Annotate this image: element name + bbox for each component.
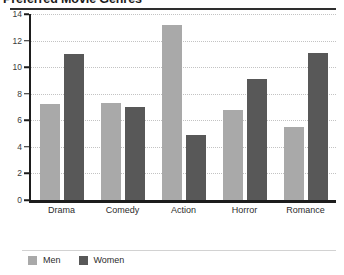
plot-wrapper: 02468101214 DramaComedyActionHorrorRoman… [0,14,344,246]
bar-group [214,14,275,200]
y-axis-tick-label: 10 [0,63,22,72]
y-axis-tick-label: 4 [0,143,22,152]
plot-area [31,14,336,200]
bar-group [275,14,336,200]
legend-swatch-icon [28,256,37,265]
x-axis-tick-label: Drama [31,206,92,215]
x-axis-tick-label: Romance [275,206,336,215]
y-axis-tick-label: 6 [0,116,22,125]
y-axis-tick-label: 8 [0,89,22,98]
legend-divider [22,250,336,251]
y-axis-tick-label: 12 [0,36,22,45]
x-axis-line [29,200,336,203]
x-axis-tick-label: Action [153,206,214,215]
y-axis-labels: 02468101214 [0,14,22,246]
x-axis-labels: DramaComedyActionHorrorRomance [31,206,336,215]
bar-group [92,14,153,200]
bar-action-women[interactable] [186,135,206,200]
bar-group [31,14,92,200]
bar-romance-men[interactable] [284,127,304,200]
y-axis-tick-label: 0 [0,196,22,205]
bar-drama-men[interactable] [40,104,60,200]
x-axis-tick-label: Horror [214,206,275,215]
legend-label: Men [43,256,61,265]
y-axis-tick-label: 14 [0,10,22,19]
chart-title-area: Preferred Movie Genres [0,0,344,8]
bar-romance-women[interactable] [308,53,328,200]
chart-card: Preferred Movie Genres 02468101214 Drama… [0,0,344,275]
bar-group [153,14,214,200]
title-divider [10,8,336,10]
legend-item-women[interactable]: Women [79,256,125,265]
bar-horror-men[interactable] [223,110,243,200]
bar-action-men[interactable] [162,25,182,200]
legend-item-men[interactable]: Men [28,256,61,265]
chart-legend: MenWomen [28,256,124,265]
bar-horror-women[interactable] [247,79,267,200]
legend-swatch-icon [79,256,88,265]
page-title: Preferred Movie Genres [0,0,344,6]
y-axis-tick-label: 2 [0,169,22,178]
bar-drama-women[interactable] [64,54,84,200]
x-axis-tick-label: Comedy [92,206,153,215]
bar-comedy-women[interactable] [125,107,145,200]
bar-comedy-men[interactable] [101,103,121,200]
legend-label: Women [94,256,125,265]
bar-groups [31,14,336,200]
